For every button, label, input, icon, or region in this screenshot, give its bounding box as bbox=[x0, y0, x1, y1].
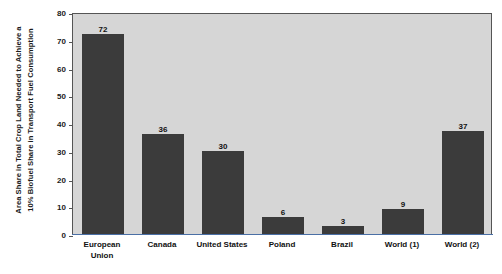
bar bbox=[142, 134, 184, 234]
bar-value-label: 9 bbox=[401, 200, 405, 209]
bar bbox=[322, 226, 364, 234]
bar bbox=[202, 151, 244, 234]
y-axis-tick-label: 50 bbox=[26, 92, 66, 101]
x-axis-tick-label: European Union bbox=[84, 240, 121, 261]
bar bbox=[262, 217, 304, 234]
bar-value-label: 30 bbox=[219, 142, 228, 151]
y-axis-tick-labels: 01020304050607080 bbox=[0, 0, 72, 236]
bar-chart: Area Share in Total Crop Land Needed to … bbox=[0, 0, 502, 274]
y-axis-tick-label: 30 bbox=[26, 147, 66, 156]
y-axis-tick-mark bbox=[69, 236, 73, 237]
x-axis-tick-label: World (2) bbox=[445, 240, 480, 251]
y-axis-tick-label: 70 bbox=[26, 36, 66, 45]
bar-value-label: 6 bbox=[281, 208, 285, 217]
y-axis-tick-marks bbox=[73, 14, 491, 234]
y-axis-tick-label: 40 bbox=[26, 120, 66, 129]
y-axis-tick-label: 80 bbox=[26, 9, 66, 18]
bar-value-label: 3 bbox=[341, 217, 345, 226]
y-axis-tick-label: 60 bbox=[26, 64, 66, 73]
y-axis-tick-label: 10 bbox=[26, 203, 66, 212]
x-axis-tick-label: World (1) bbox=[385, 240, 420, 251]
bar-value-label: 36 bbox=[159, 125, 168, 134]
bar bbox=[442, 131, 484, 234]
x-axis-tick-label: Poland bbox=[269, 240, 296, 251]
x-axis-line bbox=[72, 234, 493, 235]
bar bbox=[382, 209, 424, 234]
x-axis-tick-label: United States bbox=[196, 240, 247, 251]
plot-area: 72363063937 bbox=[72, 13, 492, 235]
x-axis-tick-label: Brazil bbox=[331, 240, 353, 251]
bar-value-label: 72 bbox=[99, 25, 108, 34]
x-axis-tick-label: Canada bbox=[148, 240, 177, 251]
bar-value-label: 37 bbox=[459, 122, 468, 131]
y-axis-tick-label: 20 bbox=[26, 175, 66, 184]
y-axis-tick-label: 0 bbox=[26, 231, 66, 240]
bar bbox=[82, 34, 124, 234]
